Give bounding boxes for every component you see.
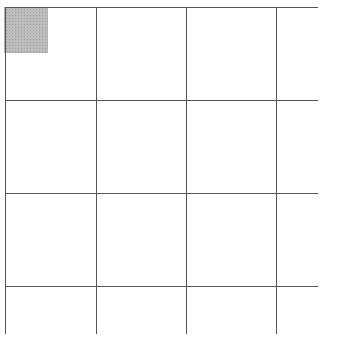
grid-cell-r3-c2[interactable] [186, 286, 276, 334]
grid-horizontal-line-2 [5, 193, 318, 194]
selected-cell-marker [4, 7, 48, 53]
grid-cell-r3-c1[interactable] [96, 286, 186, 334]
grid-cell-r1-c1[interactable] [96, 100, 186, 193]
grid-cell-r0-c2[interactable] [186, 7, 276, 100]
grid-board [0, 0, 342, 356]
grid-horizontal-line-0 [5, 7, 318, 8]
grid-vertical-line-3 [276, 7, 277, 334]
grid-vertical-line-0 [5, 7, 6, 334]
grid-cell-r2-c0[interactable] [5, 193, 96, 286]
grid-cell-r0-c3[interactable] [276, 7, 318, 100]
grid-cell-r3-c0[interactable] [5, 286, 96, 334]
grid-cell-r2-c3[interactable] [276, 193, 318, 286]
grid-cell-r1-c2[interactable] [186, 100, 276, 193]
grid-horizontal-line-3 [5, 286, 318, 287]
grid-vertical-line-2 [186, 7, 187, 334]
grid-vertical-line-1 [96, 7, 97, 334]
grid-cell-r2-c2[interactable] [186, 193, 276, 286]
grid-cell-r0-c1[interactable] [96, 7, 186, 100]
grid-cell-r3-c3[interactable] [276, 286, 318, 334]
grid-cell-r1-c0[interactable] [5, 100, 96, 193]
grid-cell-r2-c1[interactable] [96, 193, 186, 286]
grid-cell-r1-c3[interactable] [276, 100, 318, 193]
grid-horizontal-line-1 [5, 100, 318, 101]
